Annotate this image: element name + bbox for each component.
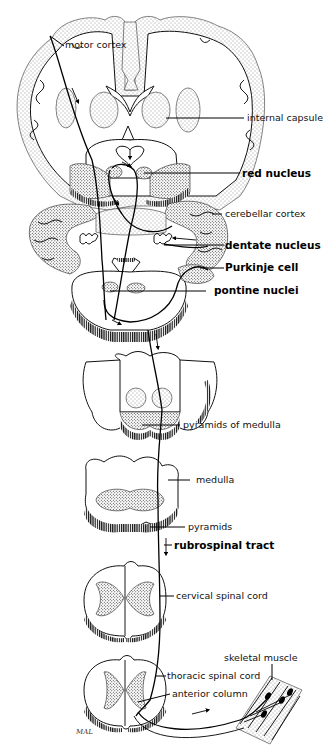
label-medulla: medulla [196,474,234,485]
dentate-nucleus-left [80,234,98,245]
rubrospinal-tract-diagram: motor cortex internal capsule red nucleu… [0,0,332,748]
putamen-right [142,92,170,128]
lower-medulla-section [84,456,178,532]
cervical-cord-section [84,562,166,643]
caudate-right [176,88,200,132]
putamen-left [90,92,118,128]
label-dentate-nucleus: dentate nucleus [225,239,321,251]
dentate-nucleus-right [154,234,172,245]
label-pontine-nuclei: pontine nuclei [214,284,299,296]
pyramids [96,489,164,511]
pyramids-of-medulla [120,412,180,430]
label-anterior-column: anterior column [172,688,248,699]
label-pyramids-of-medulla: pyramids of medulla [183,419,281,430]
artist-signature: MAL [75,728,93,736]
label-cerebellar-cortex: cerebellar cortex [225,208,306,219]
pons [72,271,186,330]
skeletal-muscle-fibers [236,676,302,744]
label-skeletal-muscle: skeletal muscle [224,652,298,663]
cerebrum-section [17,16,265,210]
thoracic-cord-section [84,656,166,733]
label-thoracic-spinal-cord: thoracic spinal cord [167,670,260,681]
label-rubrospinal-tract: rubrospinal tract [174,539,274,551]
label-cervical-spinal-cord: cervical spinal cord [176,590,268,601]
label-internal-capsule: internal capsule [247,112,323,123]
label-pyramids: pyramids [188,521,232,532]
label-purkinje-cell: Purkinje cell [225,261,298,273]
cerebellar-cortex-left [29,204,98,274]
label-red-nucleus: red nucleus [242,167,311,179]
label-motor-cortex: motor cortex [65,39,127,50]
